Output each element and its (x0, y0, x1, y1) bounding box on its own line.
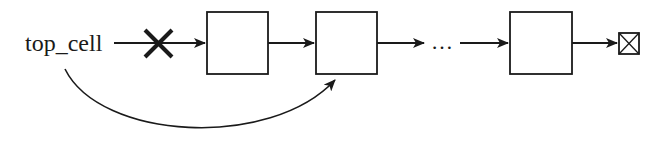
head-label: top_cell (25, 30, 103, 56)
list-node-2 (316, 12, 377, 74)
linked-list-diagram: top_cell … (0, 0, 660, 153)
list-node-3 (510, 12, 572, 74)
ellipsis: … (431, 29, 453, 54)
list-node-1 (207, 12, 268, 74)
null-terminator-icon (619, 33, 639, 54)
curved-bypass-arrow (65, 69, 335, 128)
